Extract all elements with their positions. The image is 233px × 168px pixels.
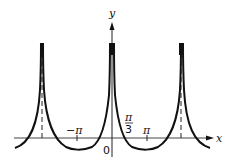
x-axis-label: x [216,132,223,145]
y-axis-label: y [108,7,116,20]
origin-label: 0 [103,144,110,157]
spike-center [110,43,115,55]
tick-label-pos-pi: π [142,124,151,137]
x-axis-arrow-icon [206,136,214,141]
tick-label-neg-pi: −π [66,124,83,137]
spike-left [40,43,44,55]
annotation-pi-over-3-den: 3 [125,123,132,136]
spike-right [179,43,183,55]
y-axis-arrow-icon [110,22,115,30]
function-graph: y x −π π π 3 0 [0,0,233,168]
